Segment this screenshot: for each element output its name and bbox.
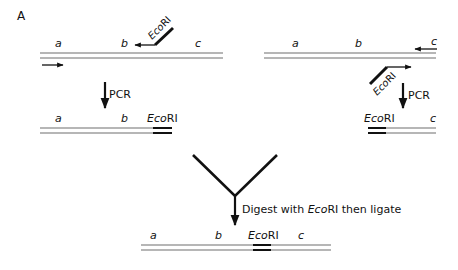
- merge-step: Digest with EcoRI then ligate: [193, 155, 401, 225]
- merge-step-label: Digest with EcoRI then ligate: [242, 203, 401, 216]
- primer-ecori-label: EcoRI: [371, 70, 398, 97]
- product-right: EcoRI c: [364, 112, 436, 133]
- pcr-label: PCR: [408, 89, 430, 102]
- site-label: EcoRI: [364, 112, 395, 125]
- label-b: b: [121, 112, 128, 125]
- final-product: a b EcoRI c: [141, 229, 331, 250]
- label-c: c: [430, 112, 436, 125]
- merge-v-icon: [193, 155, 277, 196]
- label-a: a: [55, 37, 62, 50]
- label-b: b: [121, 37, 128, 50]
- pcr-step-left: PCR: [105, 82, 131, 108]
- label-c: c: [298, 229, 304, 242]
- site-label: EcoRI: [147, 112, 178, 125]
- panel-label: A: [17, 9, 26, 23]
- label-c: c: [195, 37, 201, 50]
- site-label: EcoRI: [248, 229, 279, 242]
- pcr-label: PCR: [109, 88, 131, 101]
- product-left: a b EcoRI: [40, 112, 178, 133]
- primer-ecori-label: EcoRI: [146, 14, 173, 41]
- pcr-step-right: PCR: [403, 83, 430, 108]
- top-left-template: a b c EcoRI: [40, 14, 223, 65]
- pcr-cloning-diagram: A a b c EcoRI a b c EcoRI PCR PCR: [0, 0, 458, 270]
- label-a: a: [55, 112, 62, 125]
- label-a: a: [150, 229, 157, 242]
- label-a: a: [292, 37, 299, 50]
- label-b: b: [215, 229, 222, 242]
- label-c: c: [431, 35, 437, 48]
- label-b: b: [355, 37, 362, 50]
